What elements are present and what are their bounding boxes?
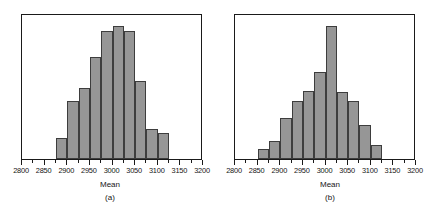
x-axis-label-a: Mean <box>0 180 220 189</box>
x-axis-minor-tick <box>336 160 337 163</box>
x-axis-tick-label: 3100 <box>362 166 378 175</box>
x-axis-label-b: Mean <box>220 180 440 189</box>
x-axis-tick-label: 3200 <box>194 166 210 175</box>
x-axis-tick <box>415 160 416 165</box>
x-axis-tick <box>392 160 393 165</box>
x-axis-tick <box>302 160 303 165</box>
panel-a: 280028502900295030003050310031503200 Mea… <box>0 0 220 213</box>
x-axis-tick-label: 3150 <box>385 166 401 175</box>
x-axis-tick-label: 3050 <box>339 166 355 175</box>
x-axis-tick-label: 2800 <box>13 166 29 175</box>
x-axis-tick-label: 2850 <box>36 166 52 175</box>
x-axis-tick-label: 3100 <box>149 166 165 175</box>
x-axis-tick-label: 2900 <box>58 166 74 175</box>
panel-caption-a: (a) <box>0 193 220 202</box>
x-axis-minor-tick <box>32 160 33 163</box>
x-axis-tick <box>44 160 45 165</box>
x-axis-minor-tick <box>123 160 124 163</box>
x-axis-minor-tick <box>168 160 169 163</box>
x-axis-tick <box>179 160 180 165</box>
x-axis-tick <box>279 160 280 165</box>
panel-b: 280028502900295030003050310031503200 Mea… <box>220 0 440 213</box>
x-axis-tick-label: 3200 <box>407 166 423 175</box>
x-axis-tick <box>112 160 113 165</box>
x-axis-minor-tick <box>381 160 382 163</box>
x-axis-tick-label: 2850 <box>249 166 265 175</box>
x-axis-tick <box>202 160 203 165</box>
x-axis-tick-label: 2950 <box>81 166 97 175</box>
x-axis-tick-label: 3000 <box>104 166 120 175</box>
x-axis-tick-label: 3150 <box>172 166 188 175</box>
x-axis-tick-label: 2950 <box>294 166 310 175</box>
panel-caption-b: (b) <box>220 193 440 202</box>
x-axis-tick <box>347 160 348 165</box>
x-axis-minor-tick <box>268 160 269 163</box>
x-axis-tick-label: 3000 <box>317 166 333 175</box>
x-axis-tick-label: 2900 <box>271 166 287 175</box>
x-axis-tick <box>21 160 22 165</box>
x-axis-minor-tick <box>404 160 405 163</box>
x-axis-tick <box>234 160 235 165</box>
x-axis-tick <box>134 160 135 165</box>
x-axis-tick <box>157 160 158 165</box>
x-axis-tick <box>89 160 90 165</box>
x-axis-minor-tick <box>100 160 101 163</box>
x-axis-tick <box>325 160 326 165</box>
x-axis-minor-tick <box>245 160 246 163</box>
x-axis-minor-tick <box>313 160 314 163</box>
x-axis-tick-label: 3050 <box>126 166 142 175</box>
x-axis-minor-tick <box>145 160 146 163</box>
x-axis-minor-tick <box>55 160 56 163</box>
x-axis-minor-tick <box>191 160 192 163</box>
figure-two-histograms: 280028502900295030003050310031503200 Mea… <box>0 0 440 213</box>
x-axis-tick-label: 2800 <box>226 166 242 175</box>
x-axis-minor-tick <box>78 160 79 163</box>
x-axis-tick <box>257 160 258 165</box>
x-axis-tick <box>370 160 371 165</box>
x-axis-minor-tick <box>358 160 359 163</box>
x-axis-minor-tick <box>291 160 292 163</box>
x-axis-tick <box>66 160 67 165</box>
